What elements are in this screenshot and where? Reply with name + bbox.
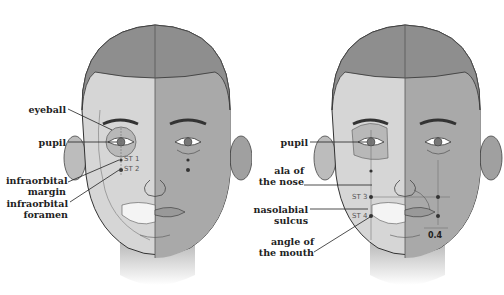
point-st2: ST 2 <box>124 165 139 173</box>
point-st4: ST 4 <box>352 212 367 220</box>
label-ala-of-nose: ala of the nose <box>254 165 304 187</box>
label-infraorbital-margin: infraorbital margin <box>6 175 66 197</box>
figure-left-st1-st2: eyeball pupil infraorbital margin infrao… <box>0 0 252 295</box>
label-pupil: pupil <box>281 137 308 148</box>
label-nasolabial-sulcus: nasolabial sulcus <box>248 204 308 226</box>
label-pupil: pupil <box>39 137 66 148</box>
point-st1: ST 1 <box>124 155 139 163</box>
figure-right-st3-st4: pupil ala of the nose nasolabial sulcus … <box>252 0 504 295</box>
label-infraorbital-foramen: infraorbital foramen <box>0 198 68 220</box>
measurement-value: 0.4 <box>428 231 442 240</box>
label-eyeball: eyeball <box>28 104 66 115</box>
label-angle-of-mouth: angle of the mouth <box>254 236 314 258</box>
point-st3: ST 3 <box>352 193 367 201</box>
